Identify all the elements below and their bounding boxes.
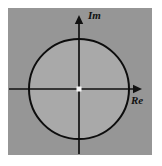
complex-plane-figure: Im Re [0, 0, 162, 166]
complex-plane-svg: Im Re [0, 0, 162, 166]
origin-marker [77, 87, 82, 92]
real-axis-label: Re [130, 94, 143, 106]
imaginary-axis-label: Im [87, 9, 101, 21]
